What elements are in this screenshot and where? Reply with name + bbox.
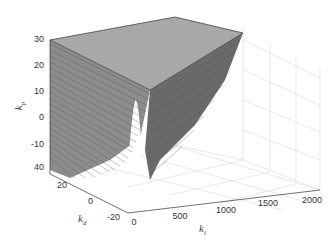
z-tick-0: 0 — [39, 112, 44, 122]
surface-fill — [50, 17, 243, 180]
z-tick-30: 30 — [34, 34, 44, 44]
y-tick-40: 40 — [34, 162, 44, 172]
z-tick-10: 10 — [34, 86, 44, 96]
x-axis: 0 500 1000 1500 2000 ki — [128, 190, 322, 237]
x-axis-label: ki — [199, 222, 206, 237]
surface-plot: 30 20 10 0 -10 kp 40 20 0 -20 kd 0 500 1… — [0, 0, 336, 244]
x-tick-0: 0 — [131, 217, 136, 227]
y-tick-0: 0 — [88, 196, 93, 206]
z-axis: 30 20 10 0 -10 kp — [12, 34, 50, 174]
chart-container: 30 20 10 0 -10 kp 40 20 0 -20 kd 0 500 1… — [0, 0, 336, 244]
svg-text:kp: kp — [12, 101, 27, 110]
x-tick-1000: 1000 — [216, 205, 236, 215]
x-tick-2000: 2000 — [302, 195, 322, 205]
x-tick-1500: 1500 — [258, 198, 278, 208]
x-tick-500: 500 — [172, 211, 187, 221]
z-tick-neg10: -10 — [31, 139, 44, 149]
y-tick-neg20: -20 — [107, 212, 120, 222]
z-tick-20: 20 — [34, 60, 44, 70]
y-axis-label: kd — [78, 212, 87, 227]
y-tick-20: 20 — [57, 180, 67, 190]
z-axis-label: kp — [12, 101, 27, 110]
